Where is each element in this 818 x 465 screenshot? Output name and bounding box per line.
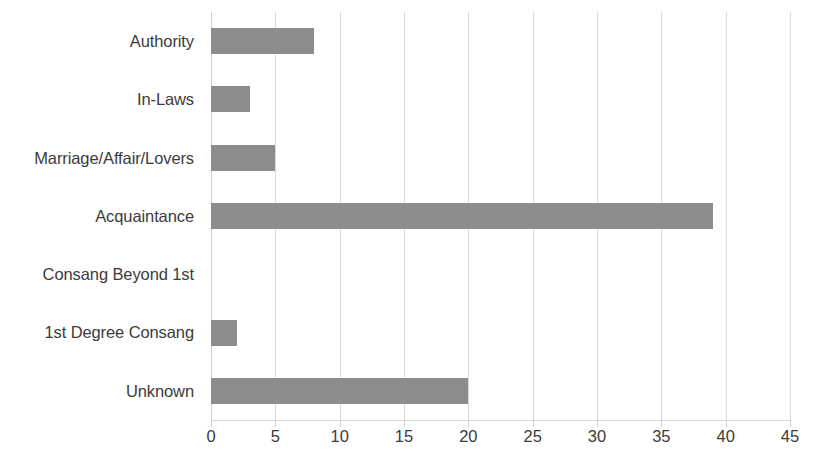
- bar-row: [211, 245, 790, 303]
- category-label: Acquaintance: [95, 207, 194, 225]
- x-tick-mark: [533, 420, 534, 427]
- value-axis: 051015202530354045: [211, 427, 790, 457]
- x-tick-mark: [661, 420, 662, 427]
- x-tick-label: 10: [330, 427, 348, 446]
- bar: [211, 203, 713, 229]
- x-tick-label: 0: [206, 427, 215, 446]
- x-tick-label: 15: [395, 427, 413, 446]
- bar: [211, 145, 275, 171]
- x-tick-label: 5: [271, 427, 280, 446]
- x-tick-label: 35: [652, 427, 670, 446]
- x-tick-label: 25: [523, 427, 541, 446]
- category-label-cell: Unknown: [0, 362, 203, 420]
- bar-row: [211, 129, 790, 187]
- x-tick-label: 40: [716, 427, 734, 446]
- plot-area: [211, 12, 790, 420]
- x-tick-mark: [211, 420, 212, 427]
- category-label: 1st Degree Consang: [44, 323, 194, 341]
- category-label-cell: Acquaintance: [0, 187, 203, 245]
- x-tick-mark: [468, 420, 469, 427]
- x-tick-mark: [597, 420, 598, 427]
- category-label-cell: In-Laws: [0, 70, 203, 128]
- x-tick-mark: [275, 420, 276, 427]
- category-label-cell: 1st Degree Consang: [0, 303, 203, 361]
- category-label: Marriage/Affair/Lovers: [34, 149, 194, 167]
- bar-row: [211, 362, 790, 420]
- category-axis: AuthorityIn-LawsMarriage/Affair/LoversAc…: [0, 12, 203, 420]
- x-tick-label: 45: [781, 427, 799, 446]
- bar-row: [211, 303, 790, 361]
- bar: [211, 28, 314, 54]
- category-label: Consang Beyond 1st: [43, 265, 194, 283]
- x-tick-label: 20: [459, 427, 477, 446]
- bar-row: [211, 70, 790, 128]
- bar-chart: AuthorityIn-LawsMarriage/Affair/LoversAc…: [0, 0, 818, 465]
- x-tick-mark: [726, 420, 727, 427]
- category-label: Authority: [130, 32, 194, 50]
- x-tick-mark: [340, 420, 341, 427]
- x-tick-label: 30: [588, 427, 606, 446]
- category-label: In-Laws: [137, 90, 194, 108]
- category-label: Unknown: [126, 382, 194, 400]
- bars-layer: [211, 12, 790, 420]
- category-label-cell: Marriage/Affair/Lovers: [0, 129, 203, 187]
- bar-row: [211, 12, 790, 70]
- x-tick-mark: [404, 420, 405, 427]
- bar: [211, 378, 468, 404]
- gridline: [790, 12, 791, 420]
- bar: [211, 320, 237, 346]
- x-tick-mark: [790, 420, 791, 427]
- bar-row: [211, 187, 790, 245]
- bar: [211, 86, 250, 112]
- category-label-cell: Authority: [0, 12, 203, 70]
- category-label-cell: Consang Beyond 1st: [0, 245, 203, 303]
